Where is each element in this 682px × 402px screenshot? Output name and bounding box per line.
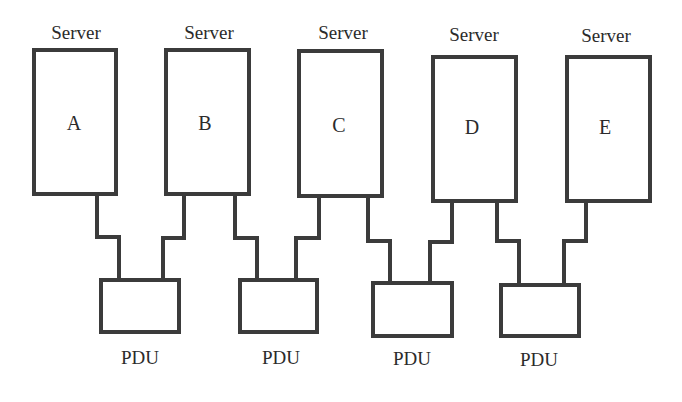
server-label-c: C [332,115,345,135]
pdu-box-2 [240,280,317,332]
server-title-b: Server [184,23,234,42]
server-title-a: Server [51,23,101,42]
pdu-box-1 [101,280,179,332]
server-title-d: Server [449,25,499,44]
server-title-c: Server [318,23,368,42]
pdu-box-4 [501,285,579,336]
pdu-label-2: PDU [262,348,300,367]
cable-c-pdu3 [368,196,390,283]
cable-a-pdu1 [97,194,119,280]
server-pdu-diagram [0,0,682,402]
cable-b-pdu2 [235,194,257,280]
server-title-e: Server [581,26,631,45]
server-label-b: B [198,113,211,133]
pdu-box-3 [373,283,452,336]
cable-d-pdu3 [430,201,452,283]
cable-e-pdu4 [564,201,586,285]
server-label-e: E [599,117,611,137]
cable-d-pdu4 [497,201,519,285]
server-label-d: D [465,117,479,137]
server-label-a: A [67,113,81,133]
pdu-label-3: PDU [393,349,431,368]
cable-b-pdu1 [163,194,184,280]
pdu-label-4: PDU [520,350,558,369]
cable-c-pdu2 [296,196,319,280]
pdu-label-1: PDU [121,348,159,367]
